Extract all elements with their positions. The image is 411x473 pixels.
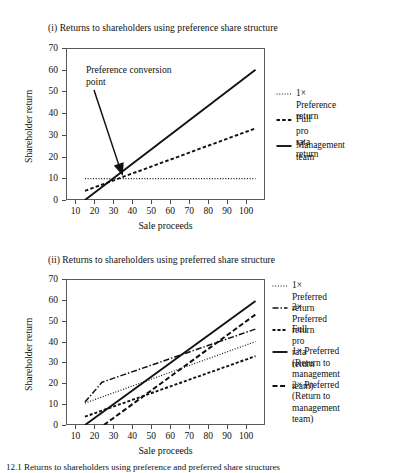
y-tick-mark xyxy=(62,157,66,158)
panel-1-title: (i) Returns to shareholders using prefer… xyxy=(48,22,278,34)
y-tick-label: 50 xyxy=(36,86,58,96)
x-tick-label: 30 xyxy=(109,206,119,216)
x-tick-label: 90 xyxy=(222,206,232,216)
y-tick-label: 0 xyxy=(36,195,58,205)
panel-1-x-axis-label: Sale proceeds xyxy=(66,220,265,231)
x-tick-mark xyxy=(208,200,209,204)
x-tick-label: 100 xyxy=(239,206,253,216)
legend-swatch-dotted-icon xyxy=(272,280,288,291)
series-line xyxy=(85,329,256,402)
y-tick-mark xyxy=(62,70,66,71)
series-line xyxy=(85,70,256,200)
x-tick-mark xyxy=(208,425,209,429)
y-tick-label: 60 xyxy=(36,65,58,75)
x-tick-label: 50 xyxy=(147,206,157,216)
y-tick-label: 30 xyxy=(36,130,58,140)
x-tick-label: 70 xyxy=(184,431,194,441)
series-line xyxy=(85,342,256,404)
annotation-arrow-line xyxy=(94,90,120,168)
y-tick-mark xyxy=(62,135,66,136)
x-tick-label: 40 xyxy=(128,206,138,216)
panel-2-title: (ii) Returns to shareholders using prefe… xyxy=(48,254,275,266)
y-tick-label: 40 xyxy=(36,337,58,347)
legend-swatch-dashdot-icon xyxy=(272,302,288,313)
x-tick-mark xyxy=(75,425,76,429)
x-tick-label: 10 xyxy=(71,431,81,441)
y-tick-mark xyxy=(62,383,66,384)
x-tick-label: 50 xyxy=(147,431,157,441)
y-tick-mark xyxy=(62,178,66,179)
x-tick-mark xyxy=(170,200,171,204)
legend-item: Management team xyxy=(276,140,345,163)
y-tick-mark xyxy=(62,279,66,280)
x-tick-mark xyxy=(94,425,95,429)
x-tick-mark xyxy=(189,425,190,429)
x-tick-label: 30 xyxy=(109,431,119,441)
y-tick-mark xyxy=(62,404,66,405)
x-tick-label: 10 xyxy=(71,206,81,216)
y-tick-mark xyxy=(62,342,66,343)
legend-label: Management team xyxy=(296,140,345,163)
x-tick-mark xyxy=(151,425,152,429)
series-line xyxy=(85,301,256,425)
x-tick-mark xyxy=(113,425,114,429)
y-tick-mark xyxy=(62,425,66,426)
x-tick-label: 60 xyxy=(165,206,175,216)
x-tick-mark xyxy=(170,425,171,429)
x-tick-mark xyxy=(189,200,190,204)
x-tick-label: 60 xyxy=(165,431,175,441)
x-tick-label: 20 xyxy=(90,431,100,441)
y-tick-label: 0 xyxy=(36,420,58,430)
y-tick-label: 70 xyxy=(36,274,58,284)
x-tick-label: 80 xyxy=(203,431,213,441)
y-tick-label: 30 xyxy=(36,357,58,367)
panel-1-annotation: Preference conversion point xyxy=(86,64,172,87)
chart-panel-1: (i) Returns to shareholders using prefer… xyxy=(0,0,411,240)
y-tick-label: 60 xyxy=(36,295,58,305)
figure-caption: 12.1 Returns to shareholders using prefe… xyxy=(6,462,406,473)
panel-2-series-canvas xyxy=(66,279,265,425)
x-tick-mark xyxy=(94,200,95,204)
panel-1-y-axis-label: Shareholder return xyxy=(23,90,34,163)
series-line xyxy=(104,314,256,425)
legend-swatch-solid-icon xyxy=(272,346,288,357)
legend-swatch-dashed-icon xyxy=(276,114,292,125)
y-tick-mark xyxy=(62,200,66,201)
x-tick-label: 40 xyxy=(128,431,138,441)
x-tick-mark xyxy=(75,200,76,204)
x-tick-mark xyxy=(246,425,247,429)
legend-label: 2× Preferred (Return to management team) xyxy=(292,380,340,426)
y-tick-label: 70 xyxy=(36,43,58,53)
panel-2-y-axis-label: Shareholder return xyxy=(23,318,34,391)
legend-swatch-dashed-short-icon xyxy=(272,324,288,335)
x-tick-label: 20 xyxy=(90,206,100,216)
legend-swatch-solid-icon xyxy=(276,140,292,151)
legend-swatch-dotted-icon xyxy=(276,88,292,99)
x-tick-mark xyxy=(132,425,133,429)
x-tick-label: 100 xyxy=(239,431,253,441)
y-tick-label: 10 xyxy=(36,399,58,409)
x-tick-mark xyxy=(151,200,152,204)
panel-2-plot-area xyxy=(66,279,265,425)
x-tick-label: 90 xyxy=(222,431,232,441)
chart-panel-2: (ii) Returns to shareholders using prefe… xyxy=(0,234,411,434)
x-tick-mark xyxy=(113,200,114,204)
series-line xyxy=(85,356,256,416)
legend-item: 2× Preferred (Return to management team) xyxy=(272,380,340,426)
x-tick-label: 70 xyxy=(184,206,194,216)
y-tick-mark xyxy=(62,91,66,92)
y-tick-label: 20 xyxy=(36,152,58,162)
y-tick-label: 10 xyxy=(36,173,58,183)
y-tick-mark xyxy=(62,321,66,322)
legend-swatch-dashed-long-icon xyxy=(272,380,288,391)
y-tick-label: 40 xyxy=(36,108,58,118)
x-tick-label: 80 xyxy=(203,206,213,216)
x-tick-mark xyxy=(227,200,228,204)
panel-2-x-axis-label: Sale proceeds xyxy=(66,445,265,456)
y-tick-label: 50 xyxy=(36,316,58,326)
y-tick-mark xyxy=(62,300,66,301)
x-tick-mark xyxy=(227,425,228,429)
y-tick-mark xyxy=(62,362,66,363)
y-tick-mark xyxy=(62,48,66,49)
